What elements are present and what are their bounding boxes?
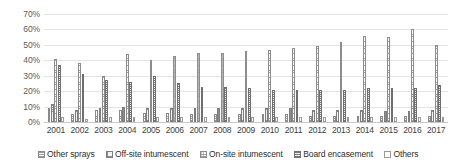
bar	[380, 116, 383, 122]
bar	[153, 76, 156, 122]
bar	[323, 117, 326, 122]
bar	[333, 116, 336, 122]
gridline	[44, 122, 448, 123]
y-axis-tick-label: 10%	[2, 102, 40, 111]
bar-group	[187, 14, 211, 122]
bar	[309, 116, 312, 122]
bar	[102, 76, 105, 122]
y-axis-tick-label: 30%	[2, 71, 40, 80]
bar	[343, 90, 346, 122]
bar	[312, 110, 315, 122]
bar	[78, 63, 81, 122]
legend-item[interactable]: Others	[384, 149, 418, 159]
x-axis-tick-label: 2015	[377, 124, 401, 137]
legend-label: Off-site intumescent	[115, 149, 188, 159]
bar-groups	[44, 14, 448, 122]
bar	[265, 108, 268, 122]
bar	[292, 48, 295, 122]
bar	[391, 88, 394, 122]
bar	[411, 29, 414, 122]
bar	[251, 117, 254, 122]
bar	[180, 117, 183, 122]
bar-group	[377, 14, 401, 122]
legend-item[interactable]: On-site intumescent	[200, 149, 283, 159]
bar	[438, 85, 441, 122]
x-axis-tick-label: 2007	[187, 124, 211, 137]
bar	[363, 36, 366, 122]
bar-group	[68, 14, 92, 122]
x-axis-tick-label: 2005	[139, 124, 163, 137]
bar	[357, 116, 360, 122]
bar	[289, 108, 292, 122]
bar	[319, 90, 322, 122]
bar	[166, 113, 169, 122]
bar	[414, 88, 417, 122]
x-axis-tick-label: 2011	[282, 124, 306, 137]
bar	[190, 114, 193, 122]
bar-group	[329, 14, 353, 122]
chart-legend: Other spraysOff-site intumescentOn-site …	[0, 146, 456, 162]
bar	[435, 45, 438, 122]
bar-group	[163, 14, 187, 122]
bar	[347, 117, 350, 122]
legend-item[interactable]: Board encasement	[294, 149, 373, 159]
bar	[275, 117, 278, 122]
bar	[316, 46, 319, 122]
bar	[119, 110, 122, 122]
legend-swatch-icon	[294, 151, 301, 158]
bar	[296, 90, 299, 122]
bar	[387, 37, 390, 122]
bar	[58, 65, 61, 122]
x-axis-tick-label: 2004	[115, 124, 139, 137]
bar	[272, 90, 275, 122]
x-axis-tick-label: 2010	[258, 124, 282, 137]
bar-group	[115, 14, 139, 122]
bar	[156, 117, 159, 122]
bar	[418, 117, 421, 122]
legend-item[interactable]: Other sprays	[38, 149, 95, 159]
bar	[201, 87, 204, 122]
legend-label: Board encasement	[303, 149, 373, 159]
legend-swatch-icon	[384, 151, 391, 158]
bar	[105, 80, 108, 122]
bar	[170, 108, 173, 122]
x-axis-tick-label: 2008	[210, 124, 234, 137]
bar	[404, 116, 407, 122]
bar-group	[210, 14, 234, 122]
legend-item[interactable]: Off-site intumescent	[106, 149, 189, 159]
x-axis-tick-label: 2009	[234, 124, 258, 137]
bar	[241, 108, 244, 122]
bar-group	[424, 14, 448, 122]
y-axis-tick-label: 20%	[2, 87, 40, 96]
bar	[99, 108, 102, 122]
bar	[197, 53, 200, 122]
legend-label: Other sprays	[47, 149, 94, 159]
bar	[133, 117, 136, 122]
bar	[394, 117, 397, 122]
bar	[360, 110, 363, 122]
legend-swatch-icon	[106, 151, 113, 158]
bar	[75, 110, 78, 122]
bar	[245, 51, 248, 122]
bar-group	[234, 14, 258, 122]
legend-swatch-icon	[38, 151, 45, 158]
bar	[221, 53, 224, 122]
bar	[431, 110, 434, 122]
x-axis-tick-label: 2006	[163, 124, 187, 137]
bar	[384, 111, 387, 122]
y-axis-tick-label: 40%	[2, 56, 40, 65]
legend-label: Others	[393, 149, 418, 159]
bar	[299, 117, 302, 122]
y-axis-tick-label: 0%	[2, 118, 40, 127]
bar-group	[92, 14, 116, 122]
bar	[408, 111, 411, 122]
legend-swatch-icon	[200, 151, 207, 158]
bar	[214, 114, 217, 122]
x-axis-tick-label: 2003	[92, 124, 116, 137]
bar	[48, 108, 51, 122]
bar	[109, 117, 112, 122]
bar	[194, 108, 197, 122]
bar	[143, 113, 146, 122]
bar	[340, 42, 343, 122]
bar	[336, 110, 339, 122]
